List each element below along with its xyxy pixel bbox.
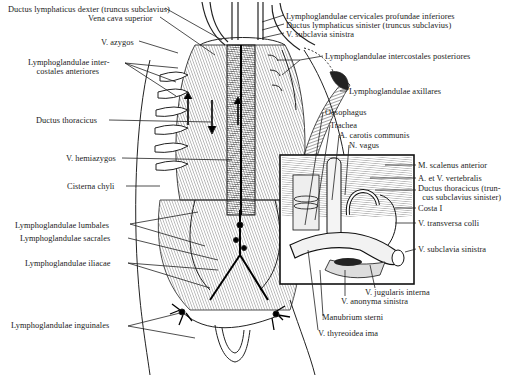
label-vena-cava-superior: Vena cava superior <box>88 14 153 23</box>
label-v-anonyma-sinistra: V. anonyma sinistra <box>341 297 408 306</box>
label-lymphoglandulae-sacrales: Lymphoglandulae sacrales <box>20 234 110 243</box>
label-lymphoglandulae-intercostales-anteriores: Lymphoglandulae inter- costales anterior… <box>28 58 110 76</box>
label-lymphoglandulae-axillares: Lymphoglandulae axillares <box>349 87 441 96</box>
label-ductus-thoracicus-inset: Ductus thoracicus (trun- cus subclavius … <box>418 184 501 202</box>
label-lymphoglandulae-lumbales: Lymphoglandulae lumbales <box>15 221 109 230</box>
label-v-transversa-colli: V. transversa colli <box>418 219 479 228</box>
label-v-thyreoidea-ima: V. thyreoidea ima <box>318 329 378 338</box>
label-manubrium-sterni: Manubrium sterni <box>322 313 383 322</box>
label-trachea: Trachea <box>330 121 357 130</box>
label-v-hemiazygos: V. hemiazygos <box>66 154 116 163</box>
label-v-subclavia-sinistra-inset: V. subclavia sinistra <box>418 245 486 254</box>
label-lymphoglandulae-iliacae: Lymphoglandulae iliacae <box>25 259 111 268</box>
label-ductus-lymphaticus-sinister: Ductus lymphaticus sinister (truncus sub… <box>286 21 451 30</box>
label-oesophagus: Oesophagus <box>325 108 366 117</box>
label-ductus-lymphaticus-dexter: Ductus lymphaticus dexter (truncus subcl… <box>8 5 170 14</box>
label-ductus-thoracicus: Ductus thoracicus <box>36 116 97 125</box>
label-a-carotis-communis: A. carotis communis <box>339 131 410 140</box>
pelvis <box>170 304 290 362</box>
label-lymphoglandulae-intercostales-posteriores: Lymphoglandulae intercostales posteriore… <box>325 52 470 61</box>
label-v-azygos: V. azygos <box>101 38 134 47</box>
label-v-subclavia-sinistra-top: V. subclavia sinistra <box>286 30 354 39</box>
label-lymphoglandulae-inguinales: Lymphoglandulae inguinales <box>11 321 109 330</box>
label-n-vagus: N. vagus <box>349 141 379 150</box>
label-m-scalenus-anterior: M. scalenus anterior <box>418 161 487 170</box>
label-v-jugularis-interna: V. jugularis interna <box>365 288 430 297</box>
label-cisterna-chyli: Cisterna chyli <box>67 182 114 191</box>
label-a-et-v-vertebralis: A. et V. vertebralis <box>418 174 482 183</box>
label-costa-i: Costa I <box>418 204 442 213</box>
anatomical-figure: Ductus lymphaticus dexter (truncus subcl… <box>0 0 526 375</box>
label-lymphoglandulae-cervicales-profundae-inferiores: Lymphoglandulae cervicales profundae inf… <box>286 12 455 21</box>
